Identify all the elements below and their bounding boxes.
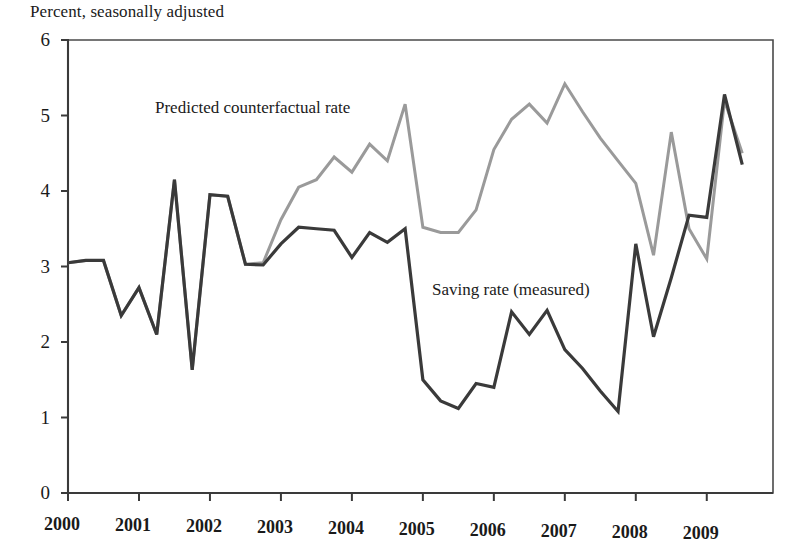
series-label-predicted-counterfactual: Predicted counterfactual rate — [155, 99, 350, 116]
chart-figure: Percent, seasonally adjusted 0123456 200… — [0, 0, 787, 556]
series-label-saving-rate-measured: Saving rate (measured) — [432, 281, 590, 298]
series-line-saving-rate-measured — [68, 94, 742, 411]
plot-area — [0, 0, 787, 556]
